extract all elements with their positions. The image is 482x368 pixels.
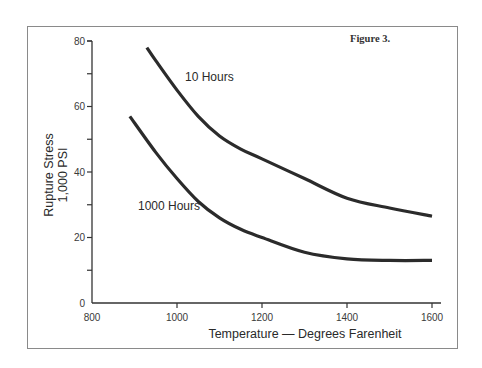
y-tick-label: 60 <box>74 101 86 112</box>
x-axis-title: Temperature — Degrees Farenheit <box>208 327 402 341</box>
y-tick-label: 20 <box>74 232 86 243</box>
y-tick-label: 0 <box>79 298 85 309</box>
series-group: 10 Hours1000 Hours <box>130 48 432 261</box>
chart: Figure 3. 0204060808001000120014001600 1… <box>0 0 482 368</box>
series-label-1000-hours: 1000 Hours <box>138 199 200 213</box>
series-1000-hours-line <box>130 116 432 260</box>
y-axis-title-line1: Rupture Stress <box>42 133 56 216</box>
figure-title: Figure 3. <box>350 33 390 44</box>
x-tick-label: 1200 <box>251 312 274 323</box>
y-tick-label: 80 <box>74 36 86 47</box>
x-tick-label: 1400 <box>336 312 359 323</box>
y-axis-title-line2: 1,000 PSI <box>56 148 70 203</box>
y-tick-label: 40 <box>74 167 86 178</box>
x-tick-label: 1000 <box>166 312 189 323</box>
x-tick-label: 1600 <box>421 312 444 323</box>
x-tick-label: 800 <box>84 312 101 323</box>
series-label-10-hours: 10 Hours <box>185 70 234 84</box>
axes: 0204060808001000120014001600 <box>74 36 444 324</box>
